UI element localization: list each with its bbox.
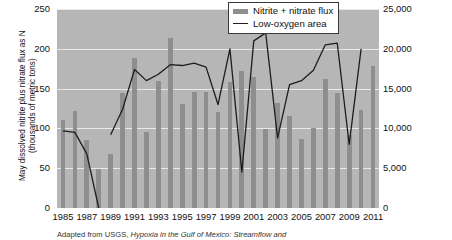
y-tick-right-15000: 15,000 (383, 83, 429, 94)
legend-item-low-oxygen-area: Low-oxygen area (233, 18, 333, 31)
legend-label-0: Nitrite + nitrate flux (253, 5, 333, 18)
y-tick-right-10000: 10,000 (383, 122, 429, 133)
y-tick-right-20000: 20,000 (383, 43, 429, 54)
plot-area (57, 9, 379, 208)
chart-legend: Nitrite + nitrate flux Low-oxygen area (228, 2, 339, 34)
y-tick-left-200: 200 (16, 43, 50, 54)
line-segment-0 (63, 131, 87, 154)
caption-italic-title: Hypoxia in the Gulf of Mexico: Streamflo… (130, 230, 286, 239)
y-tick-right-5000: 5,000 (383, 162, 429, 173)
y-tick-right-25000: 25,000 (383, 3, 429, 14)
legend-label-1: Low-oxygen area (253, 18, 327, 31)
x-tick-2011: 2011 (355, 211, 391, 222)
line-segment-gap-1988 (87, 154, 99, 208)
y-tick-left-250: 250 (16, 3, 50, 14)
y-tick-left-100: 100 (16, 122, 50, 133)
line-swatch-icon (233, 23, 248, 24)
line-segment-1 (111, 33, 361, 172)
legend-item-nitrite-nitrate-flux: Nitrite + nitrate flux (233, 5, 333, 18)
caption-prefix: Adapted from USGS, (57, 230, 130, 239)
bar-swatch-icon (233, 9, 248, 14)
chart-figure: May dissolved nitrite plus nitrate flux … (0, 0, 452, 240)
figure-caption: Adapted from USGS, Hypoxia in the Gulf o… (57, 230, 286, 239)
y-tick-left-150: 150 (16, 83, 50, 94)
line-series-low-oxygen-area (57, 9, 379, 208)
y-tick-left-50: 50 (16, 162, 50, 173)
